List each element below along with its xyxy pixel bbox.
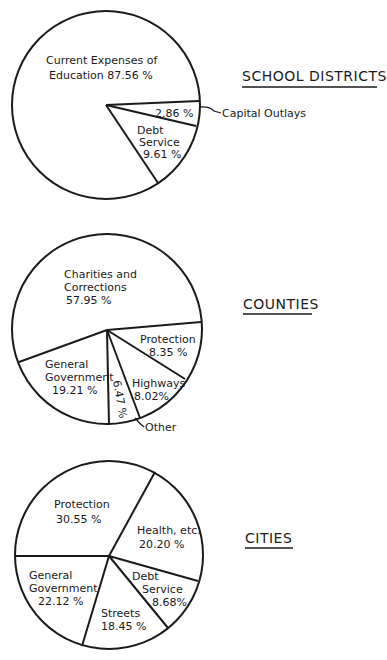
counties-protection-label-1: Protection [140,333,196,346]
school-debt-service-label-3: 9.61 % [143,148,181,161]
school-current-expenses-label-2: Education 87.56 % [49,69,153,82]
pie-charts-figure: Current Expenses of Education 87.56 % 2.… [0,0,387,660]
counties-highways-label-2: 8.02% [134,390,169,403]
cities-general-label-2: Government [29,582,98,595]
cities-health-label-2: 20.20 % [139,538,184,551]
cities-general-label-1: General [29,569,72,582]
school-capital-outlays-name: Capital Outlays [222,107,306,120]
cities-debt-label-2: Service [142,583,183,596]
school-capital-outlays-pct: 2.86 % [155,107,193,120]
school-districts-title: SCHOOL DISTRICTS [242,68,387,84]
counties-other-name: Other [145,421,177,434]
cities-title: CITIES [245,530,292,546]
counties-other-leader [135,418,144,427]
counties-protection-label-2: 8.35 % [149,346,187,359]
counties-highways-label-1: Highways [132,377,186,390]
counties-charities-label-1: Charities and [64,268,137,281]
counties-charities-label-3: 57.95 % [66,294,111,307]
counties-general-label-1: General [45,358,88,371]
cities-protection-label-1: Protection [54,498,110,511]
cities-streets-label-2: 18.45 % [101,620,146,633]
counties-charities-label-2: Corrections [64,281,127,294]
counties-general-label-3: 19.21 % [52,384,97,397]
cities-streets-label-1: Streets [101,607,140,620]
cities-debt-label-3: 8.68% [152,596,187,609]
cities-debt-label-1: Debt [132,570,159,583]
school-districts-pie: Current Expenses of Education 87.56 % 2.… [12,11,387,199]
counties-title: COUNTIES [243,296,319,312]
cities-protection-label-2: 30.55 % [56,513,101,526]
counties-general-label-2: Government [45,371,114,384]
cities-pie: Protection 30.55 % Health, etc. 20.20 % … [15,461,293,649]
counties-pie: Charities and Corrections 57.95 % Protec… [12,234,319,434]
cities-general-label-3: 22.12 % [38,595,83,608]
school-current-expenses-label-1: Current Expenses of [46,54,158,67]
cities-health-label-1: Health, etc. [137,524,201,537]
school-capital-outlays-leader [199,107,221,113]
